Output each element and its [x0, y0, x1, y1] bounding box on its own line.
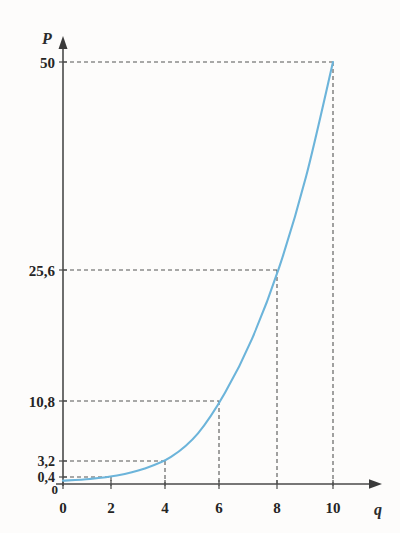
chart-background [0, 0, 400, 533]
x-tick-label-10: 10 [326, 500, 341, 516]
x-axis-label: q [374, 501, 382, 519]
y-axis-label: P [41, 30, 52, 47]
chart-page: P q 50 25,6 10,8 3,2 0,4 0 0 2 4 6 8 10 [0, 0, 400, 533]
exponential-growth-chart: P q 50 25,6 10,8 3,2 0,4 0 0 2 4 6 8 10 [0, 0, 400, 533]
x-tick-label-8: 8 [273, 500, 281, 516]
y-tick-label-50: 50 [40, 55, 55, 71]
y-origin-label: 0 [52, 482, 59, 497]
x-tick-label-0: 0 [59, 500, 67, 516]
x-tick-label-6: 6 [215, 500, 223, 516]
y-tick-label-25-6: 25,6 [29, 263, 56, 279]
y-tick-label-3-2: 3,2 [38, 454, 56, 469]
x-tick-label-2: 2 [107, 500, 115, 516]
y-tick-label-10-8: 10,8 [29, 394, 55, 410]
x-tick-label-4: 4 [161, 500, 169, 516]
